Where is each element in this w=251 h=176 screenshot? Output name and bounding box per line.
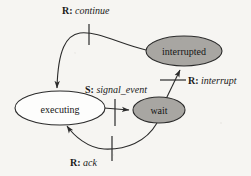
state-label-executing: executing [41, 104, 80, 115]
transition-label-signal-event: S: signal_event [85, 84, 147, 95]
state-label-wait: wait [150, 105, 167, 116]
transition-event-interrupt: interrupt [201, 75, 237, 86]
state-label-interrupted: interrupted [162, 46, 206, 57]
state-diagram-canvas: executing interrupted wait R: continue R… [0, 0, 251, 176]
transition-arrow-signal-event [104, 108, 129, 110]
transition-event-signal-event: signal_event [96, 84, 147, 95]
transition-event-ack: ack [83, 157, 97, 168]
transition-kind-signal-event: S: [85, 84, 94, 95]
transition-label-ack: R: ack [70, 157, 97, 168]
transition-kind-ack: R: [70, 157, 81, 168]
transition-kind-continue: R: [62, 5, 73, 16]
transition-label-interrupt: R: interrupt [188, 75, 237, 86]
transition-kind-interrupt: R: [188, 75, 199, 86]
transition-label-continue: R: continue [62, 5, 110, 16]
transition-event-continue: continue [75, 5, 109, 16]
transition-arrow-continue [57, 33, 146, 88]
transition-arrow-interrupt [166, 70, 180, 99]
